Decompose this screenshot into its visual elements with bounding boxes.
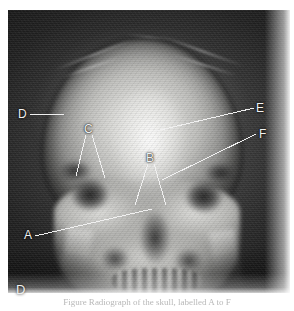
panel-letter-label: D xyxy=(16,283,25,296)
annotation-label-f: F xyxy=(259,128,267,140)
figure-panel: ABCDEF D Figure Radiograph of the skull,… xyxy=(0,0,294,311)
annotation-label-c: C xyxy=(84,123,93,135)
annotation-label-d: D xyxy=(18,108,27,120)
figure-caption: Figure Radiograph of the skull, labelled… xyxy=(8,297,286,308)
annotation-label-a: A xyxy=(24,229,32,241)
annotation-label-e: E xyxy=(256,102,264,114)
annotation-label-b: B xyxy=(146,152,154,164)
